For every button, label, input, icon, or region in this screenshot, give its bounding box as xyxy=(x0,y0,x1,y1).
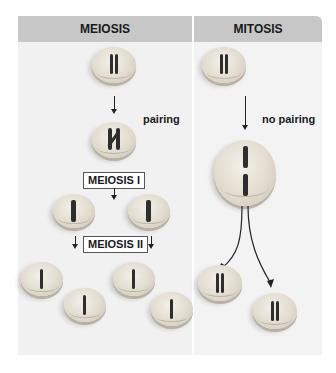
chromosome-icon xyxy=(276,301,279,321)
mitosis-daughter-cell xyxy=(253,293,297,329)
chromosome-icon xyxy=(271,301,274,321)
chromosome-icon xyxy=(216,273,219,293)
chromosome-icon xyxy=(221,273,224,293)
mitosis-daughter-cell xyxy=(198,265,242,301)
